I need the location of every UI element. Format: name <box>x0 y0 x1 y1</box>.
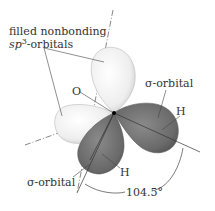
oxygen-nucleus <box>112 111 116 115</box>
sigma-orbital-right-label: σ-orbital <box>145 77 194 90</box>
angle-label: 104.5° <box>126 186 163 199</box>
oxygen-label: O <box>72 85 81 98</box>
hydrogen-bottom-label: H <box>120 166 130 179</box>
hydrogen-right-label: H <box>176 105 186 118</box>
water-orbital-diagram: filled nonbonding sp3-orbitals O σ-orbit… <box>0 0 215 211</box>
sigma-orbital-left-label: σ-orbital <box>27 176 76 189</box>
nonbonding-label-line2: sp3-orbitals <box>9 37 73 51</box>
